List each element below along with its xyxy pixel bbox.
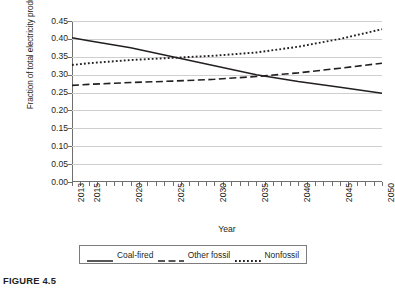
x-tick-label: 2020 xyxy=(135,183,144,225)
chart-legend: Coal-firedOther fossilNonfossil xyxy=(79,245,307,264)
y-tick-label: 0.10 xyxy=(38,142,68,151)
figure-caption: FIGURE 4.5 xyxy=(3,275,56,286)
legend-swatch-solid xyxy=(87,251,113,259)
y-tick-label: 0.35 xyxy=(38,52,68,61)
legend-label: Coal-fired xyxy=(117,250,153,260)
series-line-nonfossil xyxy=(72,29,382,65)
x-tick-label: 2035 xyxy=(261,183,270,225)
series-line-other-fossil xyxy=(72,63,382,85)
legend-label: Nonfossil xyxy=(265,250,299,260)
y-tick-label: 0.15 xyxy=(38,124,68,133)
x-tick-label: 2045 xyxy=(345,183,354,225)
x-tick-label: 2050 xyxy=(387,183,395,225)
x-tick-label: 2040 xyxy=(303,183,312,225)
x-tick-mark xyxy=(382,182,383,186)
legend-label: Other fossil xyxy=(188,250,230,260)
y-tick-label: 0.05 xyxy=(38,160,68,169)
y-tick-label: 0.45 xyxy=(38,17,68,26)
y-tick-label: 0.00 xyxy=(38,178,68,187)
legend-swatch-dotted xyxy=(235,251,261,259)
x-tick-label: 2013 xyxy=(77,183,86,225)
legend-item-other-fossil[interactable]: Other fossil xyxy=(158,250,230,260)
y-tick-label: 0.25 xyxy=(38,88,68,97)
legend-item-coal-fired[interactable]: Coal-fired xyxy=(87,250,153,260)
legend-item-nonfossil[interactable]: Nonfossil xyxy=(235,250,299,260)
x-tick-label: 2025 xyxy=(177,183,186,225)
x-axis-title: Year xyxy=(72,224,382,234)
data-series-layer xyxy=(72,21,382,182)
x-tick-label: 2030 xyxy=(219,183,228,225)
legend-swatch-dashed xyxy=(158,251,184,259)
plot-area xyxy=(72,21,382,182)
y-axis-tick-labels: 0.450.400.350.300.250.200.150.100.050.00 xyxy=(38,0,68,294)
y-tick-label: 0.20 xyxy=(38,106,68,115)
y-tick-label: 0.40 xyxy=(38,34,68,43)
figure-container: Fraction of total electricity production… xyxy=(0,0,395,294)
x-axis-tick-labels: 201320152020202520302035204020452050 xyxy=(72,183,382,225)
y-axis-title: Fraction of total electricity production xyxy=(26,0,35,125)
y-tick-label: 0.30 xyxy=(38,70,68,79)
series-line-coal-fired xyxy=(72,38,382,93)
x-tick-label: 2015 xyxy=(93,183,102,225)
